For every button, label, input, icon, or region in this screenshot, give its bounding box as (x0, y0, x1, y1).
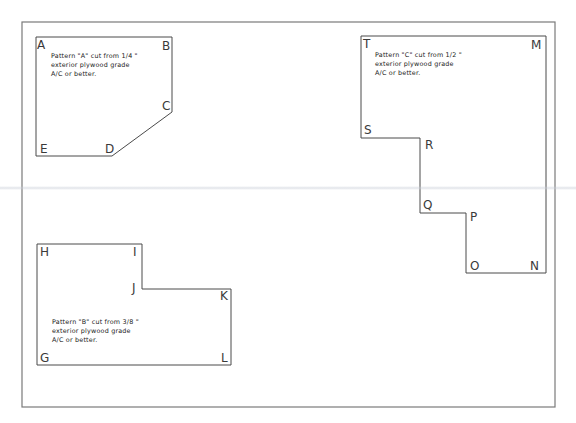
pattern-c-note-line2: exterior plywood grade (375, 60, 454, 68)
vertex-label-r: R (425, 138, 433, 152)
pattern-b-note-line2: exterior plywood grade (52, 327, 131, 335)
vertex-label-i: I (133, 245, 137, 259)
vertex-label-g: G (40, 351, 49, 365)
pattern-a-note-line2: exterior plywood grade (51, 61, 130, 69)
pattern-a-note-line1: Pattern "A" cut from 1/4 " (51, 52, 138, 60)
vertex-label-d: D (105, 142, 114, 156)
vertex-label-s: S (364, 123, 372, 137)
vertex-label-q: Q (423, 198, 432, 212)
vertex-label-j: J (131, 281, 136, 295)
vertex-label-c: C (162, 99, 170, 113)
vertex-label-n: N (530, 259, 539, 273)
pattern-b-outline (37, 244, 231, 365)
drawing-sheet: A B C D E Pattern "A" cut from 1/4 " ext… (0, 0, 576, 423)
vertex-label-o: O (470, 259, 479, 273)
pattern-c-note-line1: Pattern "C" cut from 1/2 " (375, 51, 462, 59)
vertex-label-k: K (220, 289, 229, 303)
pattern-b-note-line3: A/C or better. (52, 336, 97, 344)
scan-artifact-band (0, 186, 576, 190)
pattern-a-note-line3: A/C or better. (51, 70, 96, 78)
vertex-label-e: E (40, 142, 48, 156)
pattern-c-note-line3: A/C or better. (375, 69, 420, 77)
vertex-label-t: T (362, 37, 371, 51)
pattern-b: H I J K L G Pattern "B" cut from 3/8 " e… (37, 244, 231, 365)
vertex-label-b: B (162, 39, 170, 53)
pattern-c: T M N O P Q R S Pattern "C" cut from 1/2… (361, 36, 546, 273)
pattern-b-note-line1: Pattern "B" cut from 3/8 " (52, 318, 139, 326)
vertex-label-m: M (531, 38, 541, 52)
pattern-a: A B C D E Pattern "A" cut from 1/4 " ext… (36, 37, 172, 156)
vertex-label-l: L (221, 351, 228, 365)
vertex-label-a: A (37, 38, 46, 52)
vertex-label-h: H (40, 245, 49, 259)
drawing-svg: A B C D E Pattern "A" cut from 1/4 " ext… (0, 0, 576, 423)
vertex-label-p: P (470, 210, 477, 224)
